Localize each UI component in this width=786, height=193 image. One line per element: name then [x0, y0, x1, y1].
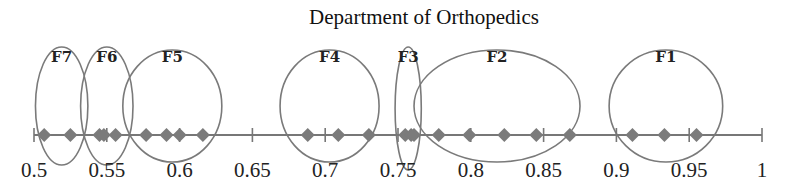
data-point-diamond	[657, 128, 671, 142]
cluster-label-f7: F7	[51, 48, 72, 66]
data-point-diamond	[497, 128, 511, 142]
x-tick-label: 0.9	[603, 158, 629, 182]
cluster-labels: F7F6F5F4F3F2F1	[51, 48, 676, 66]
x-tick-label: 0.7	[312, 158, 338, 182]
cluster-label-f6: F6	[96, 48, 117, 66]
cluster-ellipse-f2	[414, 50, 580, 162]
x-tick-label: 0.75	[380, 158, 417, 182]
x-tick-label: 0.95	[671, 158, 708, 182]
data-point-diamond	[529, 128, 543, 142]
data-point-diamond	[301, 128, 315, 142]
cluster-ellipse-f5	[123, 50, 222, 162]
data-point-diamond	[37, 128, 51, 142]
cluster-label-f3: F3	[398, 48, 419, 66]
x-tick-label: 1	[757, 158, 768, 182]
data-point-diamond	[432, 128, 446, 142]
cluster-ellipse-f1	[609, 50, 723, 162]
data-point-diamond	[173, 128, 187, 142]
x-tick-label: 0.6	[166, 158, 192, 182]
data-point-diamond	[331, 128, 345, 142]
cluster-label-f2: F2	[486, 48, 507, 66]
data-point-diamond	[462, 128, 476, 142]
cluster-chart: Department of Orthopedics 0.50.550.60.65…	[0, 0, 786, 193]
data-point-diamond	[625, 128, 639, 142]
cluster-ellipses	[35, 47, 722, 170]
cluster-label-f1: F1	[655, 48, 676, 66]
data-point-diamond	[563, 128, 577, 142]
data-point-diamond	[109, 128, 123, 142]
x-tick-label: 0.55	[88, 158, 125, 182]
chart-title: Department of Orthopedics	[309, 5, 539, 29]
x-tick-label: 0.65	[234, 158, 271, 182]
x-tick-label: 0.5	[21, 158, 47, 182]
cluster-label-f4: F4	[319, 48, 340, 66]
data-point-diamond	[159, 128, 173, 142]
cluster-ellipse-f4	[280, 50, 379, 162]
x-tick-label: 0.85	[525, 158, 562, 182]
data-point-diamond	[196, 128, 210, 142]
cluster-label-f5: F5	[162, 48, 183, 66]
data-point-diamond	[63, 128, 77, 142]
x-tick-label: 0.8	[458, 158, 484, 182]
data-point-diamond	[689, 128, 703, 142]
data-point-diamond	[139, 128, 153, 142]
